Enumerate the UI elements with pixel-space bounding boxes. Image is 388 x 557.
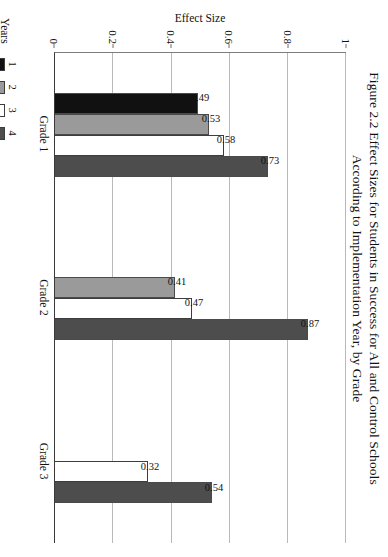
legend-item-label: 2: [7, 85, 18, 90]
y-axis-tick-label: 0.4: [165, 30, 177, 44]
bar-value-label: 0.41: [167, 276, 185, 287]
bar-value-label: 0.53: [202, 113, 220, 124]
plot-area: Effect Size 00.20.40.60.81 0.490.530.580…: [54, 52, 346, 543]
y-axis-tick-mark: [287, 44, 288, 48]
bar[interactable]: 0.87: [55, 319, 308, 340]
legend-item[interactable]: 2: [0, 81, 18, 94]
y-axis-tick-label: 0.8: [282, 30, 294, 44]
figure-title: Figure 2.2 Effect Sizes for Students in …: [348, 34, 382, 523]
y-axis-tick-mark: [229, 44, 230, 48]
bar-value-label: 0.32: [141, 461, 159, 472]
y-axis-ticks: 00.20.40.60.81: [54, 26, 346, 48]
figure-title-line-2: According to Implementation Year, by Gra…: [348, 34, 365, 523]
bar-value-label: 0.87: [301, 318, 319, 329]
plot-frame: 0.490.530.580.730.410.470.870.320.54: [54, 52, 346, 543]
bar-value-label: 0.54: [205, 482, 223, 493]
page-rotation-wrapper: Figure 2.2 Effect Sizes for Students in …: [0, 0, 388, 557]
legend-swatch: [0, 104, 5, 117]
legend-swatch: [0, 81, 5, 94]
x-axis-categories: Grade 1Grade 2Grade 3: [34, 52, 54, 543]
y-axis-title: Effect Size: [54, 10, 346, 26]
bar[interactable]: 0.49: [55, 93, 198, 114]
bar[interactable]: 0.73: [55, 156, 267, 177]
figure-page: Figure 2.2 Effect Sizes for Students in …: [0, 0, 388, 557]
bar-group: 0.410.470.87: [55, 216, 346, 379]
x-axis-category-label: Grade 1: [34, 52, 54, 216]
legend-swatch: [0, 127, 5, 140]
chart-legend: Years 1234: [0, 18, 18, 549]
y-axis-tick-mark: [54, 44, 55, 48]
legend-item-label: 3: [7, 108, 18, 113]
bar[interactable]: 0.53: [55, 114, 209, 135]
legend-item[interactable]: 1: [0, 58, 18, 71]
legend-item-label: 1: [7, 62, 18, 67]
legend-swatch: [0, 58, 5, 71]
bar-value-label: 0.73: [260, 155, 278, 166]
y-axis-tick-mark: [112, 44, 113, 48]
figure-title-line-1: Figure 2.2 Effect Sizes for Students in …: [365, 34, 382, 523]
bar-value-label: 0.47: [185, 297, 203, 308]
bar[interactable]: 0.32: [55, 461, 148, 482]
x-axis-category-label: Grade 3: [34, 379, 54, 543]
legend-items: 1234: [0, 58, 18, 140]
y-axis-tick-mark: [346, 44, 347, 48]
legend-item[interactable]: 3: [0, 104, 18, 117]
bar-group: 0.490.530.580.73: [55, 53, 346, 216]
bar-groups: 0.490.530.580.730.410.470.870.320.54: [55, 53, 346, 543]
bar[interactable]: 0.58: [55, 135, 224, 156]
legend-item-label: 4: [7, 131, 18, 136]
bar[interactable]: 0.41: [55, 277, 174, 298]
y-axis-tick-mark: [171, 44, 172, 48]
bar[interactable]: 0.47: [55, 298, 192, 319]
y-axis-title-text: Effect Size: [175, 12, 226, 24]
bar[interactable]: 0.54: [55, 482, 212, 503]
legend-item[interactable]: 4: [0, 127, 18, 140]
y-axis-tick-label: 0.6: [223, 30, 235, 44]
x-axis-category-label: Grade 2: [34, 216, 54, 380]
bar-group: 0.320.54: [55, 380, 346, 543]
bar-value-label: 0.58: [217, 134, 235, 145]
y-axis-tick-label: 0.2: [107, 30, 119, 44]
legend-title: Years: [0, 18, 11, 44]
bar-value-label: 0.49: [191, 92, 209, 103]
